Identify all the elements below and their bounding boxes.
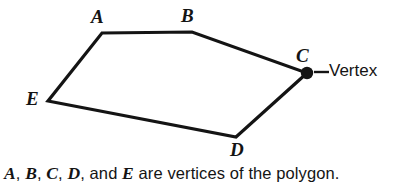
vertex-label-e: E xyxy=(26,89,39,108)
caption-letter-b: B xyxy=(25,163,37,183)
caption-letter-e: E xyxy=(122,163,134,183)
caption-sep-2: , xyxy=(37,164,46,182)
caption-letter-a: A xyxy=(4,163,16,183)
figure-container: A B C D E Vertex A, B, C, D, and E are v… xyxy=(0,0,410,187)
polygon-shape xyxy=(48,32,307,137)
caption-letter-c: C xyxy=(46,163,58,183)
polygon-diagram xyxy=(0,0,410,187)
vertex-label-c: C xyxy=(296,46,309,65)
caption-letter-d: D xyxy=(67,163,80,183)
figure-caption: A, B, C, D, and E are vertices of the po… xyxy=(4,163,340,183)
vertex-callout-label: Vertex xyxy=(329,62,377,79)
vertex-dot-marker-c xyxy=(301,67,313,79)
vertex-label-b: B xyxy=(181,6,194,25)
vertex-label-d: D xyxy=(230,140,244,159)
caption-tail: are vertices of the polygon. xyxy=(134,164,340,182)
vertex-label-a: A xyxy=(91,7,104,26)
caption-sep-4: , and xyxy=(80,164,122,182)
caption-sep-1: , xyxy=(16,164,25,182)
